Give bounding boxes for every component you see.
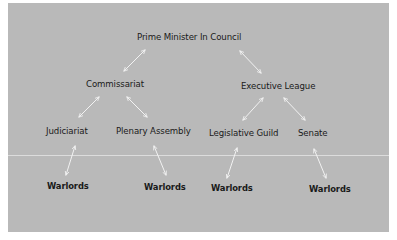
arrow-plenary-warlords <box>154 146 166 175</box>
arrow-executive-legislative <box>243 98 263 120</box>
node-warlords-3: Warlords <box>211 183 253 193</box>
node-warlords-2: Warlords <box>144 182 186 192</box>
node-senate: Senate <box>298 128 328 138</box>
arrow-senate-warlords <box>314 149 326 178</box>
node-judiciariat: Judiciariat <box>46 126 88 136</box>
node-plenary-assembly: Plenary Assembly <box>116 126 191 136</box>
arrow-commissariat-plenary <box>127 97 147 117</box>
node-executive-league: Executive League <box>241 81 315 91</box>
node-prime-minister: Prime Minister In Council <box>137 32 241 42</box>
node-legislative-guild: Legislative Guild <box>209 128 278 138</box>
node-warlords-4: Warlords <box>309 184 351 194</box>
arrow-pm-executive-league <box>240 51 261 73</box>
arrow-judiciariat-warlords <box>66 146 75 175</box>
arrow-legislative-warlords <box>227 148 237 178</box>
node-warlords-1: Warlords <box>47 181 89 191</box>
arrow-pm-commissariat <box>124 50 145 71</box>
arrow-executive-senate <box>284 98 305 120</box>
arrow-commissariat-judiciariat <box>79 97 99 117</box>
node-commissariat: Commissariat <box>86 79 144 89</box>
